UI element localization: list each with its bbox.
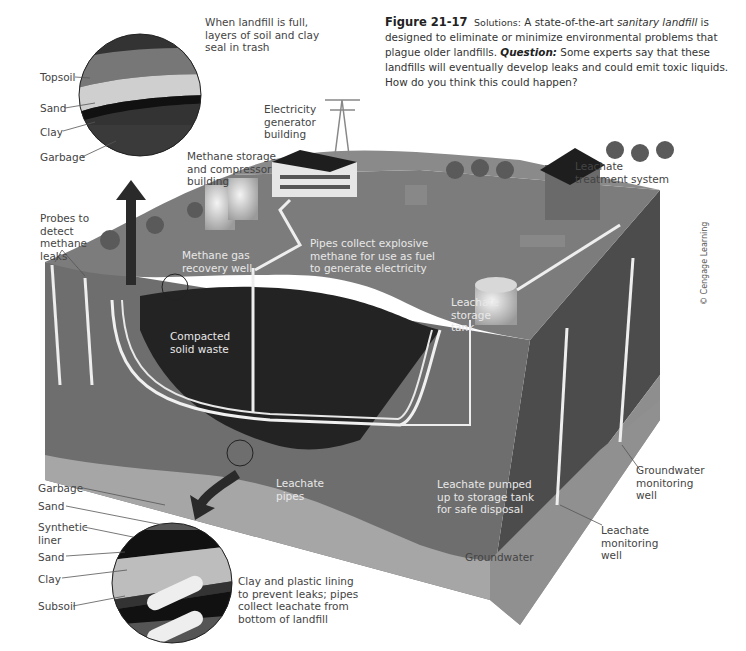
label-leachate-pumped: Leachate pumped up to storage tank for s… (437, 478, 534, 516)
label-electricity-building: Electricity generator building (264, 103, 316, 141)
caption-text: A state-of-the-art (521, 16, 617, 28)
bottom-inset-layers (110, 520, 240, 650)
credit-line: © Cengage Learning (700, 222, 709, 305)
label-leachate-tank: Leachate storage tank (451, 296, 499, 334)
figure-number: Figure 21-17 (385, 15, 467, 29)
top-layer-clay: Clay (40, 126, 63, 139)
bottom-layer-sand-2: Sand (38, 551, 64, 564)
power-pylon (325, 100, 360, 155)
truck (520, 235, 565, 247)
label-probes: Probes to detect methane leaks (40, 212, 89, 262)
bottom-layer-sand: Sand (38, 500, 64, 513)
label-pipes-collect: Pipes collect explosive methane for use … (310, 237, 435, 275)
label-methane-well: Methane gas recovery well (182, 249, 252, 274)
solutions-prefix: Solutions: (474, 17, 521, 28)
caption-term: sanitary landfill (617, 16, 697, 28)
question-label: Question: (500, 46, 557, 58)
label-compacted-waste: Compacted solid waste (170, 330, 230, 355)
bottom-layer-subsoil: Subsoil (38, 600, 76, 613)
label-groundwater: Groundwater (465, 551, 534, 564)
label-leachate-pipes: Leachate pipes (276, 477, 324, 502)
bottom-inset-note: Clay and plastic lining to prevent leaks… (238, 575, 358, 625)
figure-caption: Figure 21-17 Solutions: A state-of-the-a… (385, 15, 745, 90)
bottom-layer-synthetic-liner: Synthetic liner (38, 521, 88, 546)
top-layer-topsoil: Topsoil (40, 71, 75, 84)
bottom-layer-clay: Clay (38, 573, 61, 586)
label-groundwater-well: Groundwater monitoring well (636, 464, 705, 502)
label-leachate-well: Leachate monitoring well (601, 524, 658, 562)
top-layer-sand: Sand (40, 102, 66, 115)
top-layer-garbage: Garbage (40, 151, 85, 164)
bottom-layer-garbage: Garbage (38, 482, 83, 495)
label-methane-storage: Methane storage and compressor building (187, 150, 276, 188)
top-inset-note: When landfill is full, layers of soil an… (205, 16, 319, 54)
label-leachate-treatment: Leachate treatment system (575, 160, 669, 185)
